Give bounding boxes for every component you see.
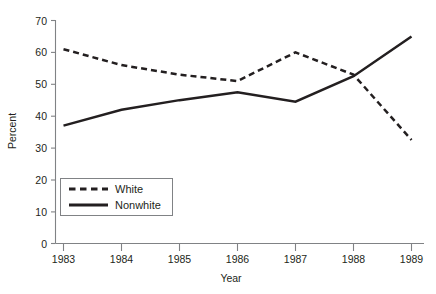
y-tick-label-50: 50 (35, 78, 47, 90)
y-tick-label-60: 60 (35, 46, 47, 58)
x-tick-label-1984: 1984 (110, 253, 134, 265)
y-tick-label-70: 70 (35, 15, 47, 27)
chart-legend: White Nonwhite (61, 179, 173, 216)
y-tick-label-30: 30 (35, 142, 47, 154)
y-tick-label-40: 40 (35, 110, 47, 122)
legend-label-nonwhite: Nonwhite (115, 199, 161, 211)
series-line-white (64, 49, 412, 140)
y-tick-label-10: 10 (35, 206, 47, 218)
x-tick-label-1985: 1985 (168, 253, 192, 265)
x-tick-label-1989: 1989 (400, 253, 424, 265)
chart-canvas: 70 60 50 40 30 20 10 0 1983 1984 1985 (0, 0, 436, 294)
legend-label-white: White (115, 183, 143, 195)
y-axis-title: Percent (6, 113, 18, 149)
x-axis-ticks: 1983 1984 1985 1986 1987 1988 1989 (52, 244, 424, 266)
y-tick-label-0: 0 (41, 238, 47, 250)
x-axis-title: Year (220, 272, 242, 284)
x-tick-label-1987: 1987 (284, 253, 308, 265)
x-tick-label-1986: 1986 (226, 253, 250, 265)
line-chart: 70 60 50 40 30 20 10 0 1983 1984 1985 (0, 0, 436, 294)
x-tick-label-1988: 1988 (342, 253, 366, 265)
y-tick-label-20: 20 (35, 174, 47, 186)
y-axis-ticks: 70 60 50 40 30 20 10 0 (35, 15, 55, 250)
x-tick-label-1983: 1983 (52, 253, 76, 265)
